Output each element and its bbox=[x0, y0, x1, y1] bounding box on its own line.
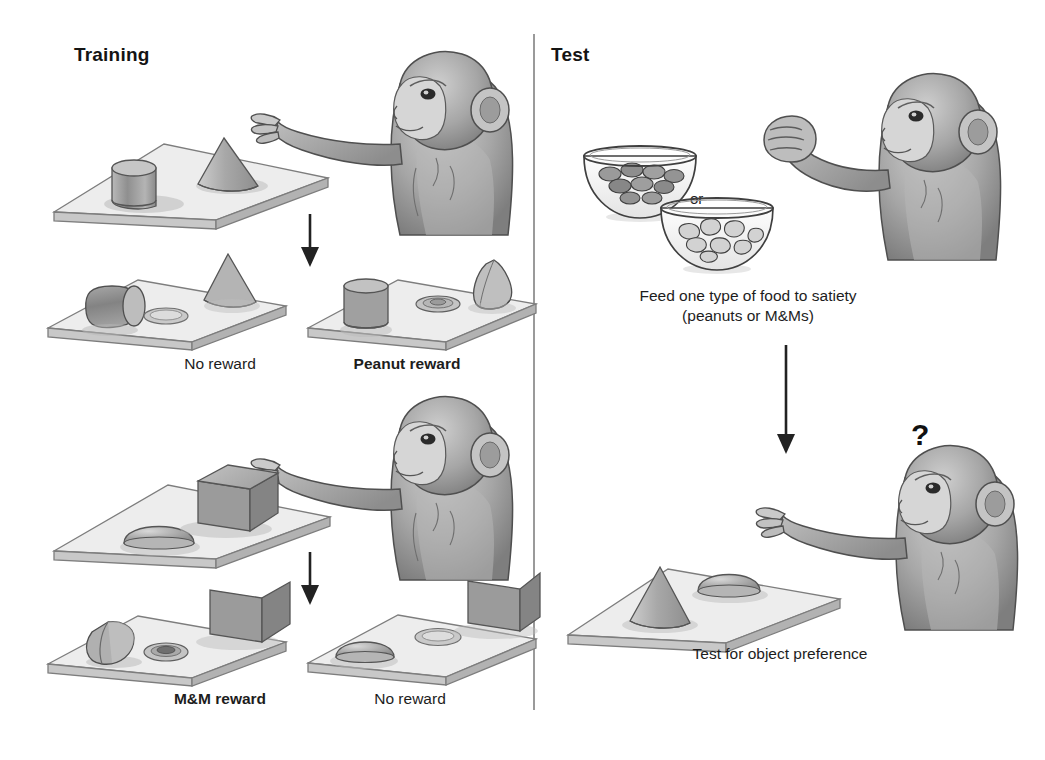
training-outcome-tray-no-reward-2 bbox=[290, 585, 540, 693]
satiation-caption-line-1: Feed one type of food to satiety bbox=[588, 286, 908, 306]
training-outcome-tray-mm-reward bbox=[42, 592, 292, 694]
training-outcome-tray-peanut-reward bbox=[290, 252, 540, 358]
training-tray-1-baited bbox=[46, 120, 336, 235]
training-outcome-tray-no-reward-1 bbox=[42, 258, 292, 358]
training-tray-2-baited bbox=[46, 455, 336, 575]
training-outcome-label-mm-reward: M&M reward bbox=[140, 690, 300, 708]
satiation-caption-line-2: (peanuts or M&Ms) bbox=[588, 306, 908, 326]
training-outcome-label-peanut-reward: Peanut reward bbox=[317, 355, 497, 373]
monkey-illustration-test-feeding bbox=[740, 60, 1010, 260]
test-tray-preference bbox=[560, 535, 855, 655]
panel-title-test: Test bbox=[551, 44, 589, 66]
test-preference-caption: Test for object preference bbox=[620, 645, 940, 663]
training-outcome-label-no-reward-1: No reward bbox=[140, 355, 300, 373]
training-outcome-label-no-reward-2: No reward bbox=[330, 690, 490, 708]
figure-canvas: Training Test bbox=[0, 0, 1045, 760]
panel-title-training: Training bbox=[74, 44, 150, 66]
